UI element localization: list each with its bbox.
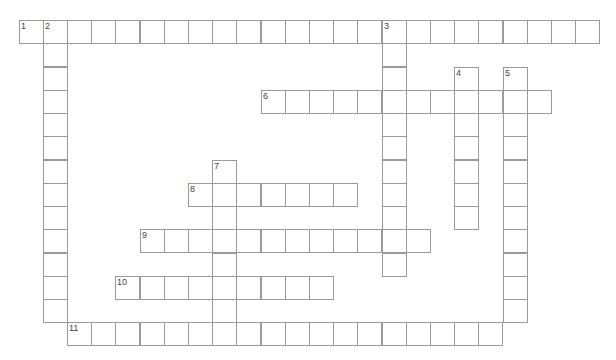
crossword-cell[interactable]	[309, 20, 334, 44]
crossword-cell[interactable]	[454, 90, 479, 114]
crossword-cell[interactable]	[333, 20, 358, 44]
crossword-cell[interactable]	[478, 90, 503, 114]
crossword-cell[interactable]	[285, 90, 310, 114]
crossword-cell[interactable]	[454, 160, 479, 184]
crossword-cell[interactable]	[382, 160, 407, 184]
crossword-cell[interactable]	[406, 20, 431, 44]
crossword-cell[interactable]	[382, 43, 407, 67]
crossword-cell[interactable]	[382, 67, 407, 91]
crossword-cell[interactable]	[43, 229, 68, 253]
crossword-cell[interactable]	[575, 20, 600, 44]
crossword-cell[interactable]	[115, 322, 140, 346]
crossword-cell[interactable]	[527, 20, 552, 44]
crossword-cell[interactable]	[406, 90, 431, 114]
crossword-cell[interactable]: 10	[115, 276, 140, 300]
crossword-cell[interactable]	[430, 322, 455, 346]
crossword-cell[interactable]: 6	[261, 90, 286, 114]
crossword-cell[interactable]	[261, 20, 286, 44]
crossword-cell[interactable]	[43, 183, 68, 207]
crossword-cell[interactable]: 5	[503, 67, 528, 91]
crossword-cell[interactable]	[212, 183, 237, 207]
crossword-cell[interactable]	[285, 322, 310, 346]
crossword-cell[interactable]	[164, 20, 189, 44]
crossword-cell[interactable]	[140, 276, 165, 300]
crossword-cell[interactable]	[309, 183, 334, 207]
crossword-cell[interactable]	[478, 20, 503, 44]
crossword-cell[interactable]	[357, 20, 382, 44]
crossword-cell[interactable]	[309, 90, 334, 114]
crossword-cell[interactable]	[115, 20, 140, 44]
crossword-cell[interactable]	[503, 113, 528, 137]
crossword-cell[interactable]	[430, 90, 455, 114]
crossword-cell[interactable]	[454, 183, 479, 207]
crossword-cell[interactable]: 1	[19, 20, 44, 44]
crossword-cell[interactable]	[382, 253, 407, 277]
crossword-cell[interactable]	[503, 183, 528, 207]
crossword-cell[interactable]	[503, 136, 528, 160]
crossword-cell[interactable]: 2	[43, 20, 68, 44]
crossword-cell[interactable]	[43, 206, 68, 230]
crossword-cell[interactable]	[261, 183, 286, 207]
crossword-cell[interactable]	[285, 20, 310, 44]
crossword-cell[interactable]	[261, 276, 286, 300]
crossword-cell[interactable]	[91, 322, 116, 346]
crossword-cell[interactable]	[91, 20, 116, 44]
crossword-cell[interactable]	[212, 299, 237, 323]
crossword-cell[interactable]	[333, 90, 358, 114]
crossword-cell[interactable]	[285, 229, 310, 253]
crossword-cell[interactable]: 3	[382, 20, 407, 44]
crossword-cell[interactable]	[261, 229, 286, 253]
crossword-cell[interactable]	[503, 90, 528, 114]
crossword-cell[interactable]	[382, 90, 407, 114]
crossword-cell[interactable]	[382, 183, 407, 207]
crossword-cell[interactable]	[140, 20, 165, 44]
crossword-cell[interactable]	[43, 253, 68, 277]
crossword-cell[interactable]	[430, 20, 455, 44]
crossword-cell[interactable]	[43, 136, 68, 160]
crossword-cell[interactable]	[333, 322, 358, 346]
crossword-cell[interactable]	[67, 20, 92, 44]
crossword-cell[interactable]	[454, 20, 479, 44]
crossword-cell[interactable]	[454, 113, 479, 137]
crossword-cell[interactable]	[551, 20, 576, 44]
crossword-cell[interactable]	[43, 43, 68, 67]
crossword-cell[interactable]	[212, 253, 237, 277]
crossword-cell[interactable]	[43, 90, 68, 114]
crossword-cell[interactable]	[212, 20, 237, 44]
crossword-cell[interactable]	[503, 206, 528, 230]
crossword-cell[interactable]	[140, 322, 165, 346]
crossword-cell[interactable]	[309, 229, 334, 253]
crossword-cell[interactable]	[527, 90, 552, 114]
crossword-cell[interactable]	[454, 136, 479, 160]
crossword-cell[interactable]	[43, 299, 68, 323]
crossword-cell[interactable]	[188, 276, 213, 300]
crossword-cell[interactable]	[503, 20, 528, 44]
crossword-cell[interactable]	[503, 253, 528, 277]
crossword-cell[interactable]	[406, 322, 431, 346]
crossword-cell[interactable]	[164, 322, 189, 346]
crossword-cell[interactable]: 11	[67, 322, 92, 346]
crossword-cell[interactable]	[188, 322, 213, 346]
crossword-cell[interactable]	[309, 322, 334, 346]
crossword-cell[interactable]	[236, 276, 261, 300]
crossword-cell[interactable]	[454, 206, 479, 230]
crossword-cell[interactable]	[503, 276, 528, 300]
crossword-cell[interactable]	[261, 322, 286, 346]
crossword-cell[interactable]	[188, 20, 213, 44]
crossword-cell[interactable]	[333, 183, 358, 207]
crossword-cell[interactable]: 4	[454, 67, 479, 91]
crossword-cell[interactable]	[357, 229, 382, 253]
crossword-cell[interactable]	[43, 276, 68, 300]
crossword-cell[interactable]: 7	[212, 160, 237, 184]
crossword-cell[interactable]	[212, 229, 237, 253]
crossword-cell[interactable]	[188, 229, 213, 253]
crossword-cell[interactable]: 9	[140, 229, 165, 253]
crossword-cell[interactable]	[382, 229, 407, 253]
crossword-cell[interactable]	[406, 229, 431, 253]
crossword-cell[interactable]	[357, 90, 382, 114]
crossword-cell[interactable]	[212, 206, 237, 230]
crossword-cell[interactable]	[382, 113, 407, 137]
crossword-cell[interactable]	[236, 183, 261, 207]
crossword-cell[interactable]	[454, 322, 479, 346]
crossword-cell[interactable]	[382, 322, 407, 346]
